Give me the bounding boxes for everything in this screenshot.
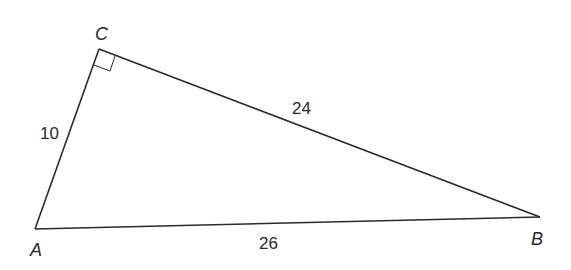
right-angle-marker: [94, 56, 115, 71]
vertex-label-b: B: [531, 229, 543, 249]
side-label-cb: 24: [292, 99, 311, 118]
vertex-label-a: A: [29, 240, 42, 260]
side-label-ac: 10: [40, 124, 59, 143]
triangle-diagram: C A B 10 24 26: [0, 0, 571, 270]
side-cb: [99, 49, 540, 217]
side-label-ab: 26: [259, 234, 278, 253]
side-ab: [35, 217, 540, 229]
vertex-label-c: C: [95, 24, 109, 44]
